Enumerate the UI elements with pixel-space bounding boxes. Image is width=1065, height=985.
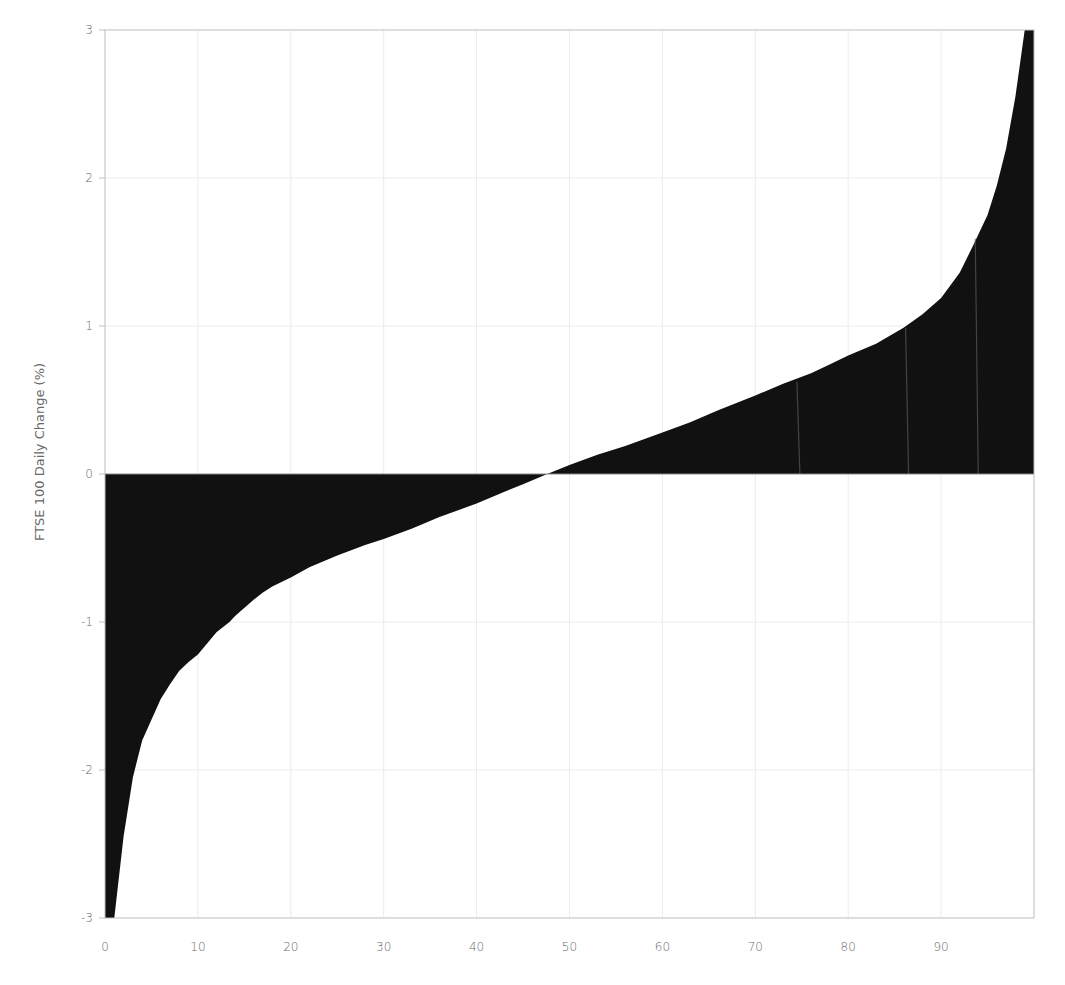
x-tick-label: 70 — [748, 940, 763, 954]
area-chart: 0102030405060708090 -3-2-10123 FTSE 100 … — [0, 0, 1065, 985]
y-tick-label: -1 — [81, 615, 93, 629]
x-tick-label: 80 — [841, 940, 856, 954]
y-tick-label: -3 — [81, 911, 93, 925]
x-tick-label: 40 — [469, 940, 484, 954]
y-axis-title: FTSE 100 Daily Change (%) — [32, 363, 47, 541]
x-tick-label: 0 — [101, 940, 109, 954]
x-tick-label: 50 — [562, 940, 577, 954]
y-axis-ticks: -3-2-10123 — [81, 23, 105, 925]
chart-container: 0102030405060708090 -3-2-10123 FTSE 100 … — [0, 0, 1065, 985]
x-axis-ticks: 0102030405060708090 — [101, 940, 949, 954]
x-tick-label: 10 — [190, 940, 205, 954]
x-tick-label: 90 — [933, 940, 948, 954]
y-tick-label: -2 — [81, 763, 93, 777]
x-tick-label: 30 — [376, 940, 391, 954]
y-tick-label: 2 — [85, 171, 93, 185]
x-tick-label: 60 — [655, 940, 670, 954]
y-tick-label: 0 — [85, 467, 93, 481]
x-tick-label: 20 — [283, 940, 298, 954]
y-tick-label: 1 — [85, 319, 93, 333]
y-tick-label: 3 — [85, 23, 93, 37]
